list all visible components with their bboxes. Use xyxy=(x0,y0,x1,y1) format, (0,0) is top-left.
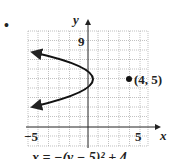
tick-label-x-neg5: −5 xyxy=(24,129,38,144)
vertex-point xyxy=(126,76,132,82)
x-axis-label: x xyxy=(159,128,167,143)
y-axis-label: y xyxy=(71,12,79,27)
equation-caption: x = −(y − 5)² + 4 xyxy=(31,150,127,159)
vertex-label: (4, 5) xyxy=(134,72,162,87)
parabola-curve xyxy=(36,53,93,106)
parabola-chart: y x 9 −5 5 (4, 5) x = −(y − 5)² + 4 xyxy=(0,0,179,159)
tick-label-y9: 9 xyxy=(78,34,85,49)
tick-label-x5: 5 xyxy=(135,129,142,144)
